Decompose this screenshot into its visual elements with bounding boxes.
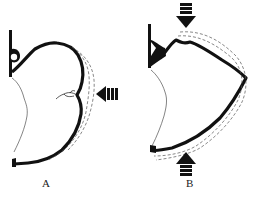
- diagram-canvas: [0, 0, 254, 197]
- panel-a-label: A: [42, 177, 50, 189]
- panel-a-inner-contour: [12, 78, 27, 152]
- panel-a-arrow-left-icon: [96, 86, 118, 102]
- panel-b-dashed-contour-1: [154, 36, 242, 156]
- panel-b-bottom-cap: [150, 145, 156, 153]
- panel-a: [9, 30, 118, 167]
- panel-b-label: B: [186, 177, 193, 189]
- panel-a-cavity-hole: [11, 54, 17, 60]
- panel-b-arrow-down-icon: [176, 3, 196, 28]
- panel-b: [148, 3, 246, 176]
- panel-a-bottom-cap: [12, 158, 16, 167]
- panel-a-fracture-lines: [56, 91, 77, 99]
- panel-b-dashed-contour-2: [156, 32, 246, 160]
- panel-b-inner-contour: [151, 70, 167, 146]
